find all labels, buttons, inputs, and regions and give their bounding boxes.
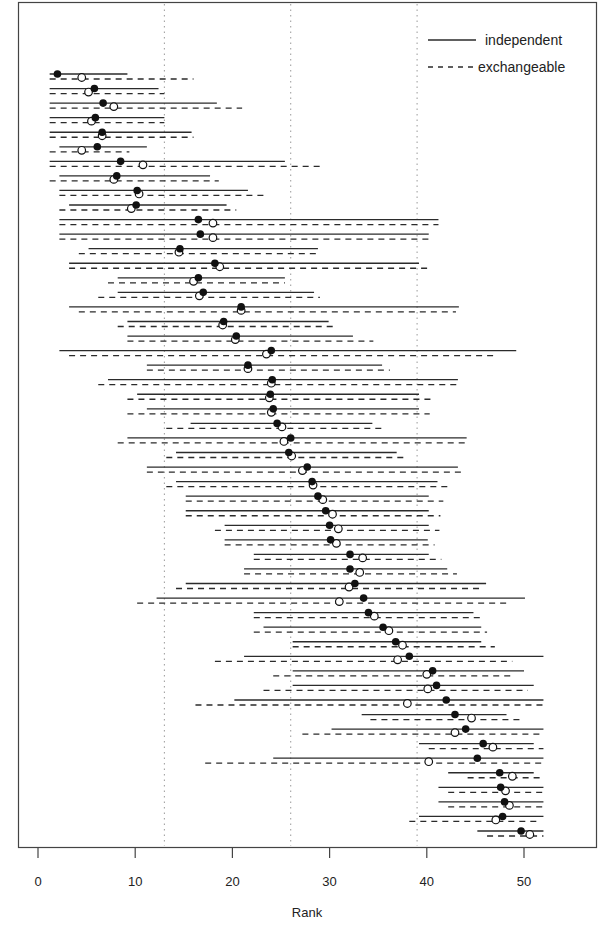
interval-row [50, 99, 242, 110]
exchangeable-point [404, 700, 412, 708]
independent-point [113, 172, 121, 180]
interval-row [215, 521, 440, 532]
independent-point [322, 507, 330, 515]
independent-point [479, 740, 487, 748]
independent-point [517, 827, 525, 835]
interval-row [409, 813, 543, 824]
interval-row [59, 187, 265, 198]
interval-row [254, 609, 480, 620]
independent-point [326, 521, 334, 529]
independent-point [442, 696, 450, 704]
reference-lines [164, 4, 417, 846]
interval-row [147, 361, 390, 372]
exchangeable-point [336, 598, 344, 606]
legend: independent exchangeable [428, 32, 565, 75]
exchangeable-point [451, 729, 459, 737]
exchangeable-point [399, 641, 407, 649]
independent-point [308, 478, 316, 486]
exchangeable-point [280, 438, 288, 446]
interval-row [166, 420, 382, 431]
interval-row [438, 784, 543, 795]
independent-point [176, 245, 184, 253]
exchangeable-point [139, 161, 147, 169]
interval-row [118, 434, 467, 445]
interval-row [127, 405, 429, 416]
interval-row [205, 754, 543, 765]
independent-point [314, 492, 322, 500]
exchangeable-point [509, 772, 517, 780]
independent-point [220, 318, 228, 326]
independent-point [327, 536, 335, 544]
interval-row [244, 565, 457, 576]
interval-row [59, 216, 438, 227]
interval-row [59, 201, 236, 212]
independent-point [379, 623, 387, 631]
x-tick-label: 30 [322, 874, 336, 889]
independent-point [211, 259, 219, 267]
interval-row [186, 507, 441, 518]
independent-point [285, 449, 293, 457]
interval-row [127, 390, 430, 401]
interval-row [225, 536, 435, 547]
interval-row [254, 623, 487, 634]
interval-row [50, 172, 219, 183]
independent-point [287, 434, 295, 442]
legend-label-independent: independent [485, 32, 562, 48]
x-tick-label: 50 [517, 874, 531, 889]
interval-row [186, 492, 444, 503]
interval-row [50, 114, 165, 125]
legend-label-exchangeable: exchangeable [478, 59, 565, 75]
exchangeable-point [329, 510, 337, 518]
x-tick-label: 20 [225, 874, 239, 889]
independent-point [268, 376, 276, 384]
exchangeable-point [468, 714, 476, 722]
independent-point [346, 565, 354, 573]
exchangeable-point [394, 656, 402, 664]
independent-point [267, 347, 275, 355]
interval-row [50, 128, 194, 139]
independent-point [392, 638, 400, 646]
exchangeable-point [526, 831, 534, 839]
exchangeable-point [424, 685, 432, 693]
independent-point [92, 114, 100, 122]
independent-point [99, 99, 107, 107]
independent-point [197, 230, 205, 238]
interval-row [79, 245, 320, 256]
independent-point [406, 653, 414, 661]
exchangeable-point [335, 525, 343, 533]
x-tick-label: 0 [34, 874, 41, 889]
exchangeable-point [489, 743, 497, 751]
interval-row [50, 85, 165, 96]
interval-row [176, 580, 486, 591]
interval-row [59, 230, 431, 241]
interval-row [273, 667, 524, 678]
interval-row [254, 551, 442, 562]
independent-point [303, 463, 311, 471]
independent-point [237, 303, 245, 311]
interval-row [362, 711, 524, 722]
independent-point [267, 390, 275, 398]
exchangeable-point [209, 234, 217, 242]
x-tick-label: 40 [420, 874, 434, 889]
interval-row [264, 682, 534, 693]
independent-point [133, 187, 141, 195]
interval-rows [50, 70, 544, 838]
independent-point [351, 580, 359, 588]
independent-point [244, 361, 252, 369]
independent-point [269, 405, 277, 413]
exchangeable-point [110, 103, 118, 111]
independent-point [117, 158, 125, 166]
interval-row [59, 347, 516, 358]
independent-point [496, 769, 504, 777]
independent-point [474, 754, 482, 762]
interval-row [98, 289, 320, 300]
interval-row [166, 449, 406, 460]
interval-row [108, 274, 285, 285]
interval-row [50, 70, 194, 81]
interval-row [302, 725, 543, 736]
exchangeable-point [78, 146, 86, 154]
x-axis-title: Rank [292, 905, 323, 920]
interval-row [50, 143, 147, 154]
interval-row [477, 827, 543, 838]
independent-point [54, 70, 62, 78]
